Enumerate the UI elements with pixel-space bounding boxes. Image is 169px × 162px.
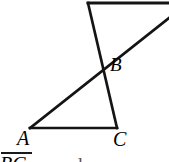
vertex-label-b: B: [110, 55, 122, 74]
vertex-label-a: A: [17, 128, 29, 148]
caption-segment-name: BC: [0, 154, 26, 162]
caption-trailing-word: and: [55, 155, 82, 162]
geometry-figure: A B C BC and: [0, 0, 169, 162]
clipped-caption-strip: BC and: [0, 152, 169, 162]
vertex-label-c: C: [113, 129, 126, 149]
